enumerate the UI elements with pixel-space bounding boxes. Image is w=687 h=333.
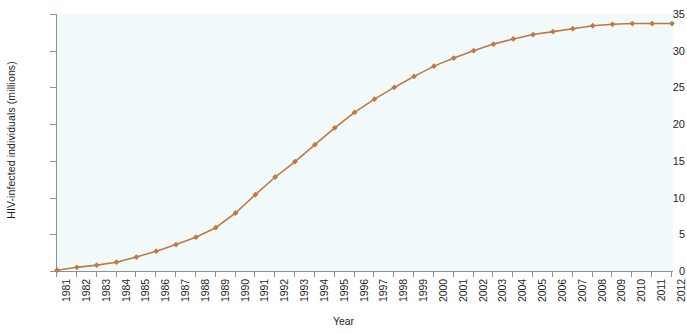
x-axis-tick-label: 1982 <box>80 279 92 302</box>
data-point <box>629 21 635 27</box>
x-axis-tick-label: 1981 <box>60 279 72 302</box>
x-axis-tick-label: 1986 <box>159 279 171 302</box>
data-point <box>570 26 576 32</box>
x-axis-tick <box>433 272 434 277</box>
y-axis-title-text: HIV-infected individuals (millions) <box>5 61 17 219</box>
x-axis-tick-label: 1988 <box>199 279 211 302</box>
x-axis-tick <box>334 272 335 277</box>
x-axis-title-text: Year <box>333 315 354 327</box>
x-axis-tick <box>592 272 593 277</box>
x-axis-tick-label: 1984 <box>120 279 132 302</box>
data-point <box>54 267 60 273</box>
x-axis-tick <box>76 272 77 277</box>
plot-area <box>56 14 673 272</box>
x-axis-tick-label: 2000 <box>437 279 449 302</box>
x-axis-tick-label: 1989 <box>219 279 231 302</box>
x-axis-tick <box>631 272 632 277</box>
x-axis-tick-label: 1985 <box>139 279 151 302</box>
data-point <box>431 63 437 69</box>
x-axis-tick <box>552 272 553 277</box>
x-axis-tick-label: 2011 <box>655 279 667 301</box>
data-point <box>550 29 556 35</box>
data-point <box>94 262 100 268</box>
x-axis-tick-label: 1998 <box>397 279 409 302</box>
x-axis-tick-label: 2008 <box>596 279 608 302</box>
x-axis-tick <box>116 272 117 277</box>
data-point <box>173 242 179 248</box>
x-axis-tick-label: 1996 <box>358 279 370 302</box>
data-point <box>649 21 655 27</box>
hiv-prevalence-line-chart: HIV-infected individuals (millions) 0510… <box>0 0 687 333</box>
x-axis-tick <box>453 272 454 277</box>
x-axis-tick-label: 1987 <box>179 279 191 302</box>
data-point <box>451 55 457 61</box>
x-axis-tick <box>671 272 672 277</box>
data-point <box>590 23 596 29</box>
data-point <box>510 36 516 42</box>
data-point <box>114 259 120 265</box>
data-point <box>133 254 139 260</box>
x-axis-tick-label: 2010 <box>635 279 647 302</box>
x-axis-tick <box>56 272 57 277</box>
x-axis-tick <box>512 272 513 277</box>
x-axis-tick <box>294 272 295 277</box>
x-axis-tick <box>611 272 612 277</box>
x-axis-tick <box>354 272 355 277</box>
data-point <box>471 48 477 54</box>
x-axis-tick-label: 1994 <box>318 279 330 302</box>
x-axis-tick-label: 2007 <box>576 279 588 302</box>
x-axis-tick <box>155 272 156 277</box>
x-axis-tick <box>572 272 573 277</box>
x-axis-tick-label: 1992 <box>278 279 290 302</box>
x-axis-tick-label: 2001 <box>457 279 469 302</box>
data-point <box>491 41 497 47</box>
x-axis-tick-label: 1993 <box>298 279 310 302</box>
x-axis-tick <box>235 272 236 277</box>
x-axis-tick-label: 1995 <box>338 279 350 302</box>
x-axis-tick <box>314 272 315 277</box>
x-axis-tick-label: 2009 <box>615 279 627 302</box>
x-axis-tick <box>492 272 493 277</box>
series-plot <box>57 14 673 271</box>
x-axis-tick <box>413 272 414 277</box>
x-axis-tick-label: 1990 <box>239 279 251 302</box>
x-axis-tick-label: 2006 <box>556 279 568 302</box>
x-axis-tick <box>96 272 97 277</box>
y-axis-title: HIV-infected individuals (millions) <box>0 0 22 280</box>
x-axis-tick-label: 1997 <box>377 279 389 302</box>
x-axis-tick-label: 1999 <box>417 279 429 302</box>
x-axis-tick <box>175 272 176 277</box>
x-axis-tick-label: 2002 <box>477 279 489 302</box>
x-axis-tick-label: 1983 <box>100 279 112 302</box>
x-axis-tick <box>215 272 216 277</box>
data-point <box>610 21 616 27</box>
data-point <box>74 264 80 270</box>
data-point <box>193 234 199 240</box>
x-axis-tick-label: 1991 <box>258 279 270 302</box>
series-line <box>57 24 672 271</box>
x-axis-tick <box>274 272 275 277</box>
x-axis-tick <box>254 272 255 277</box>
x-axis-title: Year <box>0 315 687 327</box>
data-point <box>530 32 536 38</box>
x-axis-tick-label: 2004 <box>516 279 528 302</box>
data-point <box>669 21 675 27</box>
x-axis-tick <box>393 272 394 277</box>
x-axis-tick <box>195 272 196 277</box>
x-axis-tick-label: 2012 <box>675 279 687 302</box>
data-point <box>153 248 159 254</box>
x-axis-tick <box>473 272 474 277</box>
x-axis-tick-label: 2005 <box>536 279 548 302</box>
x-axis-tick <box>373 272 374 277</box>
x-axis-tick <box>532 272 533 277</box>
series-markers <box>54 21 675 274</box>
x-axis-tick-label: 2003 <box>496 279 508 302</box>
x-axis-tick <box>651 272 652 277</box>
x-axis-tick <box>135 272 136 277</box>
